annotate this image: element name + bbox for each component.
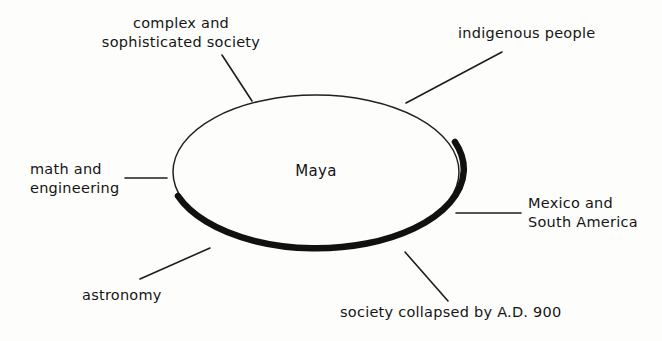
node-label-society-collapsed: society collapsed by A.D. 900 [340,303,600,322]
node-label-complex-society: complex and sophisticated society [88,14,274,52]
connector-complex [222,55,252,101]
center-node-label: Maya [256,162,376,181]
connector-indigenous [406,52,502,103]
node-label-math-engineering: math and engineering [30,160,130,198]
node-label-indigenous-people: indigenous people [458,24,618,43]
connector-astronomy [140,248,210,279]
center-ellipse-shadow [178,142,464,248]
connector-collapsed [405,252,448,301]
concept-web-diagram: Maya complex and sophisticated society i… [0,0,662,341]
node-label-mexico-south-america: Mexico and South America [528,194,652,232]
node-label-astronomy: astronomy [82,286,192,305]
